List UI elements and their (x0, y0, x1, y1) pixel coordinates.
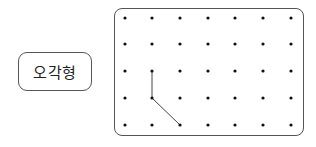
drawn-segments (152, 71, 180, 125)
peg-dot (178, 69, 181, 72)
peg-dot (123, 16, 126, 19)
peg-dot (123, 42, 126, 45)
peg-dot (178, 42, 181, 45)
peg-dot (150, 16, 153, 19)
peg-dot (261, 96, 264, 99)
peg-dot (206, 96, 209, 99)
peg-dot (233, 42, 236, 45)
peg-dot (178, 16, 181, 19)
peg-dot (150, 123, 153, 126)
peg-dot (123, 69, 126, 72)
peg-dot (233, 16, 236, 19)
peg-dot (206, 69, 209, 72)
peg-dot (206, 16, 209, 19)
segment-line (152, 98, 180, 125)
peg-dot (261, 16, 264, 19)
peg-dot (289, 69, 292, 72)
peg-dot (150, 42, 153, 45)
peg-dot (289, 16, 292, 19)
peg-dot (261, 123, 264, 126)
peg-dot (289, 123, 292, 126)
peg-dot (261, 69, 264, 72)
peg-dot (233, 96, 236, 99)
peg-dot (178, 96, 181, 99)
peg-dot (261, 42, 264, 45)
peg-dot (178, 123, 181, 126)
peg-dot (289, 42, 292, 45)
peg-dot (206, 42, 209, 45)
peg-dot (123, 123, 126, 126)
peg-dot (233, 69, 236, 72)
peg-dot (150, 69, 153, 72)
peg-dot (123, 96, 126, 99)
peg-dot (233, 123, 236, 126)
geoboard-dots-and-lines (0, 0, 316, 147)
peg-dots (123, 16, 292, 126)
peg-dot (289, 96, 292, 99)
peg-dot (206, 123, 209, 126)
peg-dot (150, 96, 153, 99)
